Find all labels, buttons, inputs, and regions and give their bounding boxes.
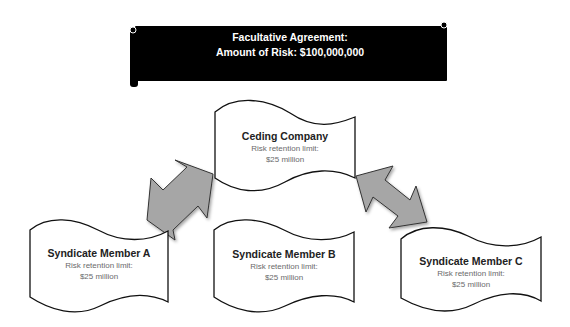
member-c-label: Risk retention limit:: [401, 268, 541, 279]
double-arrow-right: [356, 166, 427, 228]
member-c-node: Syndicate Member C Risk retention limit:…: [401, 255, 541, 290]
member-a-node: Syndicate Member A Risk retention limit:…: [30, 247, 168, 282]
ceding-company-value: $25 million: [215, 154, 355, 165]
member-b-label: Risk retention limit:: [214, 261, 354, 272]
member-a-title: Syndicate Member A: [30, 247, 168, 260]
member-a-label: Risk retention limit:: [30, 260, 168, 271]
member-c-title: Syndicate Member C: [401, 255, 541, 268]
ceding-company-node: Ceding Company Risk retention limit: $25…: [215, 130, 355, 165]
ceding-company-label: Risk retention limit:: [215, 143, 355, 154]
banner-text: Facultative Agreement: Amount of Risk: $…: [135, 30, 445, 60]
member-a-value: $25 million: [30, 271, 168, 282]
member-b-node: Syndicate Member B Risk retention limit:…: [214, 248, 354, 283]
member-b-title: Syndicate Member B: [214, 248, 354, 261]
double-arrow-left: [147, 160, 213, 240]
banner-amount: Amount of Risk: $100,000,000: [135, 45, 445, 60]
member-c-value: $25 million: [401, 279, 541, 290]
ceding-company-title: Ceding Company: [215, 130, 355, 143]
banner-title: Facultative Agreement:: [135, 30, 445, 45]
member-b-value: $25 million: [214, 272, 354, 283]
